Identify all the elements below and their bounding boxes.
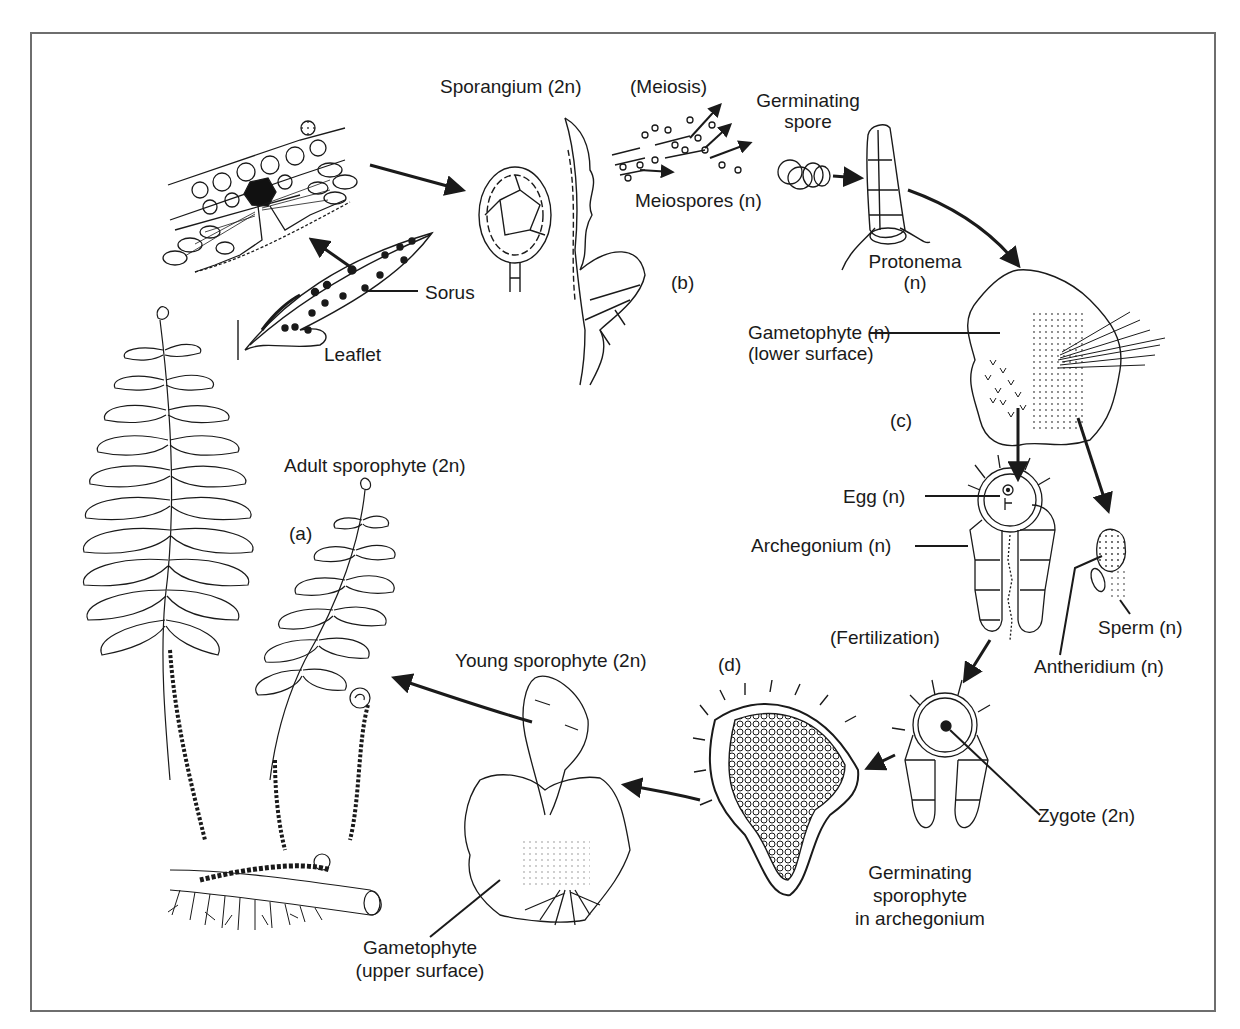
germinating-sporophyte-drawing: [693, 680, 858, 895]
label-sorus: Sorus: [425, 282, 475, 304]
label-germinating-sporophyte-line1: Germinating: [840, 862, 1000, 884]
gametophyte-lower-surface-drawing: [968, 270, 1165, 446]
antheridium-sperm-drawing: [1088, 529, 1128, 600]
germinating-spore-drawing: [778, 160, 830, 189]
label-germinating-spore-line1: Germinating: [748, 90, 868, 112]
archegonium-egg-drawing: [968, 455, 1055, 640]
label-sporangium: Sporangium (2n): [440, 76, 582, 98]
meiospore-spray-drawing: [612, 105, 750, 181]
leaflet-drawing: [238, 233, 432, 360]
label-sperm: Sperm (n): [1098, 617, 1182, 639]
fern-life-cycle-illustration: [0, 0, 1240, 1029]
stage-label-a: (a): [289, 523, 312, 545]
sporangium-drawing: [479, 167, 551, 292]
label-archegonium: Archegonium (n): [751, 535, 891, 557]
label-young-sporophyte: Young sporophyte (2n): [455, 650, 647, 672]
label-protonema-line1: Protonema: [860, 251, 970, 273]
stage-label-c: (c): [890, 410, 912, 432]
label-leaflet: Leaflet: [324, 344, 381, 366]
dehiscing-sporangium-drawing: [565, 118, 645, 385]
label-fertilization: (Fertilization): [830, 627, 940, 649]
label-meiospores: Meiospores (n): [635, 190, 762, 212]
label-protonema-line2: (n): [860, 272, 970, 294]
stage-label-d: (d): [718, 654, 741, 676]
label-gametophyte-upper-line2: (upper surface): [340, 960, 500, 982]
protonema-drawing: [842, 125, 930, 270]
label-meiosis: (Meiosis): [630, 76, 707, 98]
label-germinating-sporophyte-line3: in archegonium: [830, 908, 1010, 930]
label-antheridium: Antheridium (n): [1034, 656, 1164, 678]
label-gametophyte-upper-line1: Gametophyte: [350, 937, 490, 959]
adult-sporophyte-fern-drawing: [83, 307, 395, 930]
label-adult-sporophyte: Adult sporophyte (2n): [284, 455, 466, 477]
label-egg: Egg (n): [843, 486, 905, 508]
label-gametophyte-lower-line1: Gametophyte (n): [748, 322, 891, 344]
label-gametophyte-lower-line2: (lower surface): [748, 343, 874, 365]
stage-label-b: (b): [671, 272, 694, 294]
label-germinating-sporophyte-line2: sporophyte: [840, 885, 1000, 907]
label-germinating-spore-line2: spore: [748, 111, 868, 133]
label-zygote: Zygote (2n): [1038, 805, 1135, 827]
